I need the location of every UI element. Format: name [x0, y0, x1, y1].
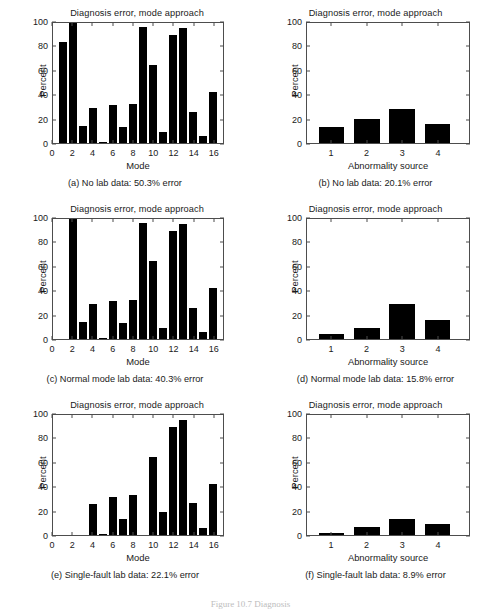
bar	[59, 42, 67, 143]
panel-d-xlabel: Abnormality source	[306, 356, 470, 367]
bar	[169, 35, 177, 143]
x-tick-label: 12	[168, 344, 178, 354]
y-tick-label: 40	[38, 90, 48, 100]
x-tick-mark	[52, 22, 53, 26]
x-tick-mark	[330, 140, 331, 144]
bar	[109, 105, 117, 143]
x-tick-mark	[437, 532, 438, 536]
panel-f: Diagnosis error, mode approach Percent A…	[250, 392, 501, 592]
bar	[109, 497, 117, 535]
y-tick-mark	[52, 242, 56, 243]
x-tick-mark	[173, 336, 174, 340]
x-tick-label: 2	[70, 148, 75, 158]
y-tick-mark	[52, 487, 56, 488]
panel-c-subcaption: (c) Normal mode lab data: 40.3% error	[0, 374, 250, 384]
y-tick-mark	[220, 511, 224, 512]
x-tick-mark	[112, 140, 113, 144]
y-tick-label: 40	[38, 286, 48, 296]
x-tick-label: 16	[209, 148, 219, 158]
y-tick-label: 100	[287, 213, 302, 223]
y-tick-mark	[52, 95, 56, 96]
y-tick-label: 80	[38, 237, 48, 247]
y-tick-mark	[466, 119, 470, 120]
x-tick-label: 14	[189, 148, 199, 158]
y-tick-mark	[306, 291, 310, 292]
x-tick-mark	[173, 414, 174, 418]
x-tick-label: 10	[148, 344, 158, 354]
x-tick-mark	[112, 532, 113, 536]
y-tick-mark	[466, 315, 470, 316]
x-tick-mark	[366, 22, 367, 26]
x-tick-mark	[112, 336, 113, 340]
x-tick-mark	[132, 532, 133, 536]
x-tick-label: 2	[70, 344, 75, 354]
y-tick-mark	[220, 218, 224, 219]
y-tick-label: 60	[38, 262, 48, 272]
x-tick-label: 1	[328, 344, 333, 354]
x-tick-mark	[193, 218, 194, 222]
bar	[319, 533, 344, 535]
x-tick-label: 1	[328, 540, 333, 550]
x-tick-label: 2	[364, 148, 369, 158]
x-tick-mark	[173, 140, 174, 144]
y-tick-label: 80	[292, 41, 302, 51]
y-tick-mark	[52, 46, 56, 47]
y-tick-mark	[306, 242, 310, 243]
y-tick-mark	[466, 536, 470, 537]
y-tick-mark	[466, 414, 470, 415]
panel-b-plot: Percent Abnormality source 0204060801001…	[306, 22, 470, 144]
bar	[89, 504, 97, 535]
x-tick-label: 16	[209, 540, 219, 550]
x-tick-mark	[173, 22, 174, 26]
x-tick-label: 0	[49, 344, 54, 354]
bar	[169, 427, 177, 535]
x-tick-label: 12	[168, 148, 178, 158]
x-tick-mark	[153, 414, 154, 418]
x-tick-mark	[132, 414, 133, 418]
y-tick-mark	[220, 70, 224, 71]
x-tick-label: 4	[435, 148, 440, 158]
x-tick-mark	[112, 218, 113, 222]
x-tick-mark	[92, 22, 93, 26]
x-tick-label: 2	[364, 540, 369, 550]
y-tick-label: 80	[292, 433, 302, 443]
y-tick-mark	[52, 438, 56, 439]
y-tick-label: 40	[292, 90, 302, 100]
y-tick-mark	[466, 22, 470, 23]
y-tick-label: 0	[297, 139, 302, 149]
y-tick-mark	[306, 266, 310, 267]
y-tick-mark	[52, 511, 56, 512]
y-tick-mark	[220, 119, 224, 120]
y-tick-mark	[52, 22, 56, 23]
y-tick-label: 80	[292, 237, 302, 247]
y-tick-mark	[52, 218, 56, 219]
x-tick-label: 2	[70, 540, 75, 550]
y-tick-mark	[52, 70, 56, 71]
y-tick-label: 100	[287, 17, 302, 27]
x-tick-mark	[330, 532, 331, 536]
x-tick-mark	[153, 532, 154, 536]
y-tick-mark	[466, 291, 470, 292]
bar	[189, 112, 197, 143]
y-tick-mark	[306, 487, 310, 488]
y-tick-label: 40	[292, 482, 302, 492]
x-tick-mark	[437, 414, 438, 418]
x-tick-label: 8	[130, 540, 135, 550]
bar	[119, 323, 127, 339]
panel-c-bars	[53, 219, 223, 339]
bar	[179, 224, 187, 339]
y-tick-label: 60	[38, 458, 48, 468]
y-tick-label: 0	[297, 531, 302, 541]
y-tick-label: 20	[38, 115, 48, 125]
x-tick-mark	[153, 22, 154, 26]
y-tick-label: 20	[292, 115, 302, 125]
y-tick-mark	[220, 340, 224, 341]
x-tick-mark	[72, 22, 73, 26]
panel-d-bars	[307, 219, 469, 339]
x-tick-label: 4	[435, 540, 440, 550]
y-tick-label: 20	[292, 311, 302, 321]
x-tick-mark	[72, 218, 73, 222]
y-tick-mark	[306, 95, 310, 96]
x-tick-mark	[330, 414, 331, 418]
y-tick-mark	[466, 462, 470, 463]
